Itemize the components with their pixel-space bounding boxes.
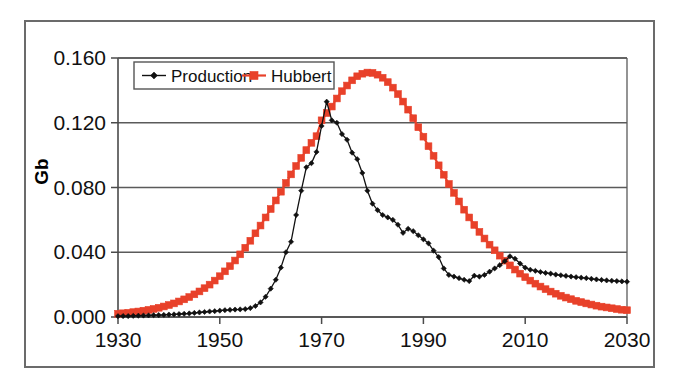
chart-legend[interactable]: ProductionHubbert	[134, 62, 334, 89]
data-point-marker	[477, 274, 482, 279]
x-tick-label: 2010	[502, 328, 549, 351]
data-point-marker	[334, 120, 339, 125]
data-point-marker	[283, 180, 290, 187]
data-point-marker	[250, 72, 258, 80]
data-point-marker	[462, 277, 467, 282]
data-point-marker	[430, 152, 437, 159]
data-point-marker	[461, 206, 468, 213]
data-point-marker	[420, 133, 427, 140]
data-point-marker	[333, 95, 340, 102]
data-point-marker	[278, 265, 283, 270]
data-point-marker	[614, 278, 619, 283]
x-tick-label: 1950	[196, 328, 243, 351]
data-point-marker	[212, 309, 217, 314]
data-point-marker	[242, 244, 249, 251]
data-point-marker	[257, 222, 264, 229]
y-axis-title: Gb	[31, 158, 52, 184]
data-point-marker	[405, 106, 412, 113]
data-point-marker	[247, 237, 254, 244]
data-point-marker	[217, 308, 222, 313]
data-point-marker	[553, 272, 558, 277]
data-point-marker	[400, 98, 407, 105]
data-point-marker	[481, 235, 488, 242]
data-point-marker	[288, 239, 293, 244]
chart-plot: 0.0000.0400.0800.1200.160 19301950197019…	[26, 22, 653, 366]
data-point-marker	[538, 269, 543, 274]
data-point-marker	[604, 278, 609, 283]
data-point-marker	[589, 276, 594, 281]
data-point-marker	[558, 273, 563, 278]
data-point-marker	[328, 103, 335, 110]
data-point-marker	[425, 143, 432, 150]
data-point-marker	[207, 309, 212, 314]
data-point-marker	[197, 310, 202, 315]
data-point-marker	[568, 274, 573, 279]
data-point-marker	[299, 188, 304, 193]
x-tick-label: 1990	[400, 328, 447, 351]
gridlines	[118, 58, 627, 317]
x-axis-tick-labels: 193019501970199020102030	[95, 317, 651, 351]
data-point-marker	[248, 305, 253, 310]
x-tick-label: 1930	[95, 328, 142, 351]
data-point-marker	[579, 275, 584, 280]
data-point-marker	[273, 277, 278, 282]
y-tick-label: 0.120	[53, 111, 106, 134]
data-point-marker	[624, 279, 629, 284]
data-point-marker	[395, 91, 402, 98]
data-point-marker	[262, 214, 269, 221]
data-series-group	[115, 69, 631, 319]
data-point-marker	[294, 212, 299, 217]
legend-label: Production	[171, 67, 252, 86]
data-point-marker	[237, 251, 244, 258]
data-point-marker	[202, 309, 207, 314]
y-axis-tick-labels: 0.0000.0400.0800.1200.160	[53, 46, 118, 328]
data-point-marker	[283, 250, 288, 255]
data-point-marker	[222, 308, 227, 313]
series-hubbert	[115, 69, 631, 317]
data-point-marker	[267, 206, 274, 213]
data-point-marker	[410, 115, 417, 122]
y-tick-label: 0.000	[53, 305, 106, 328]
data-point-marker	[435, 162, 442, 169]
data-point-marker	[360, 170, 365, 175]
data-point-marker	[277, 188, 284, 195]
data-point-marker	[293, 163, 300, 170]
data-point-marker	[365, 188, 370, 193]
data-point-marker	[252, 230, 259, 237]
data-point-marker	[182, 311, 187, 316]
y-axis-title-text: Gb	[31, 158, 52, 184]
series-line	[118, 102, 627, 316]
x-tick-label: 1970	[298, 328, 345, 351]
data-point-marker	[389, 84, 396, 91]
data-point-marker	[456, 276, 461, 281]
data-point-marker	[466, 214, 473, 221]
data-point-marker	[288, 171, 295, 178]
data-point-marker	[533, 268, 538, 273]
data-point-marker	[471, 221, 478, 228]
data-point-marker	[543, 270, 548, 275]
data-point-marker	[243, 306, 248, 311]
data-point-marker	[227, 307, 232, 312]
legend-label: Hubbert	[271, 67, 332, 86]
data-point-marker	[308, 139, 315, 146]
data-point-marker	[272, 197, 279, 204]
data-point-marker	[192, 310, 197, 315]
data-point-marker	[599, 277, 604, 282]
data-point-marker	[303, 147, 310, 154]
x-tick-label: 2030	[604, 328, 651, 351]
data-point-marker	[624, 307, 631, 314]
data-point-marker	[187, 311, 192, 316]
data-point-marker	[232, 307, 237, 312]
series-line	[118, 73, 627, 314]
data-point-marker	[318, 117, 325, 124]
data-point-marker	[476, 228, 483, 235]
data-point-marker	[176, 311, 181, 316]
data-point-marker	[574, 275, 579, 280]
data-point-marker	[584, 276, 589, 281]
data-point-marker	[451, 189, 458, 196]
data-point-marker	[594, 277, 599, 282]
data-point-marker	[528, 267, 533, 272]
data-point-marker	[451, 274, 456, 279]
y-tick-label: 0.080	[53, 176, 106, 199]
data-point-marker	[609, 278, 614, 283]
